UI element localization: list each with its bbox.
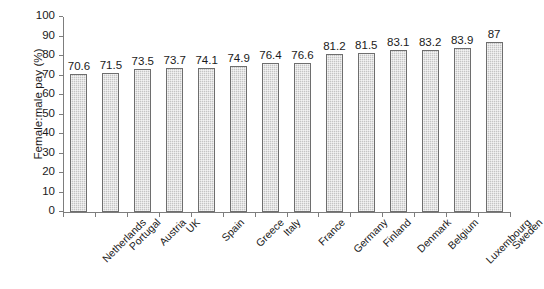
bar xyxy=(294,63,311,212)
y-tick: 50 xyxy=(59,114,63,115)
x-tick xyxy=(95,212,96,217)
y-tick: 20 xyxy=(59,172,63,173)
x-tick xyxy=(414,212,415,217)
bar xyxy=(358,53,375,212)
y-tick-label: 80 xyxy=(42,48,55,60)
x-axis-label: Greece xyxy=(253,216,286,249)
y-tick: 100 xyxy=(59,16,63,17)
x-tick xyxy=(223,212,224,217)
bar xyxy=(102,73,119,212)
x-tick xyxy=(350,212,351,217)
x-axis-label: UK xyxy=(183,216,202,235)
y-tick-label: 40 xyxy=(42,126,55,138)
x-tick xyxy=(159,212,160,217)
y-tick-label: 90 xyxy=(42,29,55,41)
bar xyxy=(326,54,343,212)
y-tick-label: 10 xyxy=(42,185,55,197)
y-tick-label: 0 xyxy=(49,204,55,216)
y-tick: 80 xyxy=(59,55,63,56)
y-tick: 90 xyxy=(59,36,63,37)
bar xyxy=(390,50,407,212)
y-tick-label: 30 xyxy=(42,146,55,158)
y-tick: 60 xyxy=(59,94,63,95)
bar xyxy=(422,50,439,212)
y-tick-label: 70 xyxy=(42,68,55,80)
x-axis-label: Austria xyxy=(156,216,188,248)
x-tick xyxy=(318,212,319,217)
x-tick xyxy=(287,212,288,217)
bar xyxy=(486,42,503,212)
x-tick xyxy=(127,212,128,217)
x-axis-label: Italy xyxy=(280,216,302,238)
bar xyxy=(454,48,471,212)
bar-value-label: 87 xyxy=(471,28,517,40)
y-axis-line xyxy=(63,17,64,213)
x-tick xyxy=(255,212,256,217)
bar xyxy=(134,69,151,212)
y-tick: 10 xyxy=(59,192,63,193)
y-tick: 70 xyxy=(59,75,63,76)
y-tick: 40 xyxy=(59,133,63,134)
x-axis-label: France xyxy=(316,216,348,248)
x-tick xyxy=(510,212,511,217)
x-axis-label: Spain xyxy=(219,216,246,243)
y-tick-label: 50 xyxy=(42,107,55,119)
plot-area: 0102030405060708090100 70.671.573.573.77… xyxy=(63,17,510,212)
x-tick xyxy=(63,212,64,217)
bar xyxy=(262,63,279,212)
bar xyxy=(166,68,183,212)
bar xyxy=(230,66,247,212)
y-tick-label: 60 xyxy=(42,87,55,99)
bar xyxy=(198,68,215,212)
y-tick-label: 100 xyxy=(36,9,55,21)
y-tick: 30 xyxy=(59,153,63,154)
y-tick-label: 20 xyxy=(42,165,55,177)
x-tick xyxy=(478,212,479,217)
bar xyxy=(70,74,87,212)
x-axis-label: Denmark xyxy=(415,216,454,255)
